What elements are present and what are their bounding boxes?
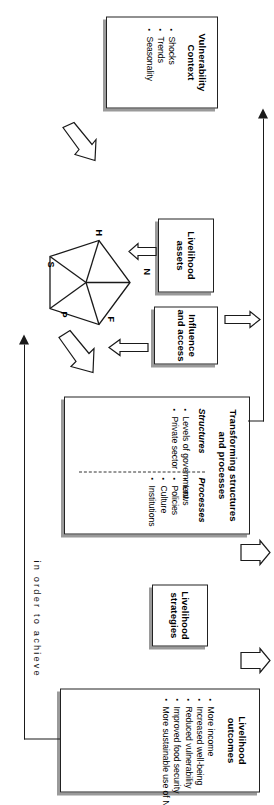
connector-transforming-up <box>248 420 264 421</box>
pentagon-label-natural: N <box>142 268 152 275</box>
pentagon-label-social: S <box>46 261 56 267</box>
outcomes-heading-line2: outcomes <box>226 717 237 763</box>
assets-heading-line1: Livelihood <box>186 231 197 280</box>
processes-label: Processes <box>196 477 207 532</box>
list-item: Levels of government <box>180 408 191 468</box>
list-item: Improved food security <box>171 698 182 791</box>
arrowhead-to-assets <box>20 334 30 344</box>
list-item: Trends <box>155 28 166 107</box>
list-item: Increased well-being <box>194 698 205 791</box>
strategies-heading-line1: Livelihood <box>180 591 191 640</box>
list-item: Policies <box>169 477 180 532</box>
vulnerability-context-box: Vulnerability Context Shocks Trends Seas… <box>106 16 218 108</box>
list-item: Private sector <box>169 408 180 468</box>
livelihood-assets-box: Livelihood assets <box>158 218 214 292</box>
arrow-transforming-to-strategies <box>240 540 270 566</box>
list-item: Laws <box>180 477 191 532</box>
caption-in-order-to-achieve: in order to achieve <box>32 560 42 677</box>
influence-heading-line2: and access <box>176 309 187 361</box>
list-item: Culture <box>157 477 168 532</box>
list-item: More sustainable use of NR base <box>160 698 171 791</box>
list-item: Shocks <box>166 28 177 107</box>
arrow-influence-up <box>224 310 260 328</box>
transforming-heading: Transforming structures and processes <box>217 397 239 533</box>
outcomes-list: More income Increased well-being Reduced… <box>160 698 216 791</box>
strategies-heading: Livelihood strategies <box>169 585 191 645</box>
vulnerability-context-heading: Vulnerability Context <box>186 17 208 107</box>
arrow-vulnerability-to-assets <box>62 122 96 162</box>
framework-diagram: Vulnerability Context Shocks Trends Seas… <box>0 0 274 805</box>
connector-outcomes-down <box>24 738 60 739</box>
list-item: Seasonality <box>143 28 154 107</box>
livelihood-outcomes-box: Livelihood outcomes More income Increase… <box>60 688 260 792</box>
influence-heading: Influence and access <box>176 307 198 363</box>
vulnerability-heading-line1: Vulnerability <box>197 33 208 91</box>
pentagon-label-physical: P <box>59 311 69 317</box>
list-item: Institutions <box>146 477 157 532</box>
arrow-assets-to-strategies <box>58 330 96 374</box>
outcomes-heading-line1: Livelihood <box>237 716 248 765</box>
transforming-heading-line2: and processes <box>217 431 228 499</box>
structures-list: Levels of government Private sector <box>169 408 191 468</box>
arrowhead-to-vulnerability <box>259 108 269 118</box>
diagram-canvas: Vulnerability Context Shocks Trends Seas… <box>0 0 274 805</box>
structures-group: Structures Levels of government Private … <box>169 408 207 468</box>
asset-pentagon-icon <box>42 236 134 328</box>
pentagon-label-human: H <box>94 229 104 236</box>
vulnerability-heading-line2: Context <box>186 44 197 80</box>
livelihood-strategies-box: Livelihood strategies <box>152 584 208 646</box>
outcomes-heading: Livelihood outcomes <box>226 689 248 791</box>
assets-heading-line2: assets <box>175 240 186 270</box>
vulnerability-context-list: Shocks Trends Seasonality <box>143 28 177 107</box>
processes-group: Processes Laws Policies Culture Institut… <box>146 477 207 532</box>
list-item: More income <box>205 698 216 791</box>
connector-transforming-left <box>263 118 264 421</box>
strategies-heading-line2: strategies <box>169 592 180 638</box>
influence-heading-line1: Influence <box>187 314 198 357</box>
transforming-structures-processes-box: Transforming structures and processes St… <box>64 396 250 534</box>
transforming-heading-line1: Transforming structures <box>228 409 239 521</box>
arrow-strategies-to-outcomes <box>240 648 270 674</box>
arrow-influence-down <box>108 338 148 356</box>
arrow-assets-label-to-pentagon <box>128 242 156 260</box>
structures-label: Structures <box>196 408 207 468</box>
livelihood-assets-heading: Livelihood assets <box>175 219 197 291</box>
processes-list: Laws Policies Culture Institutions <box>146 477 191 532</box>
list-item: Reduced vulnerability <box>182 698 193 791</box>
influence-and-access-box: Influence and access <box>154 306 218 364</box>
connector-outcomes-feedback <box>24 344 25 739</box>
pentagon-label-financial: F <box>106 316 116 322</box>
